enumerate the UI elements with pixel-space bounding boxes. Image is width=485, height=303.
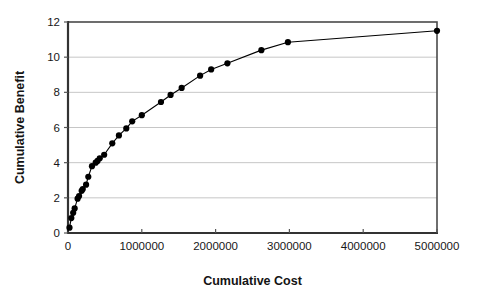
data-point — [72, 205, 78, 211]
data-point — [109, 140, 115, 146]
y-tick-label-0: 0 — [54, 227, 60, 239]
x-axis-title: Cumulative Cost — [203, 274, 302, 288]
y-tick-label-6: 6 — [54, 122, 60, 134]
data-point — [208, 66, 214, 72]
x-tick-label-5000000: 5000000 — [415, 240, 460, 252]
data-point — [116, 132, 122, 138]
y-tick-label-10: 10 — [47, 51, 60, 63]
chart-container: 024681012 010000002000000300000040000005… — [0, 0, 485, 303]
y-axis-title: Cumulative Benefit — [13, 70, 27, 184]
y-tick-label-4: 4 — [54, 157, 61, 169]
data-point — [285, 39, 291, 45]
data-point — [123, 125, 129, 131]
data-point — [434, 28, 440, 34]
data-point — [76, 193, 82, 199]
y-tick-label-8: 8 — [54, 86, 60, 98]
y-tick-label-12: 12 — [47, 16, 60, 28]
data-point — [158, 99, 164, 105]
data-point — [179, 85, 185, 91]
data-point — [129, 118, 135, 124]
cumulative-benefit-cost-chart: 024681012 010000002000000300000040000005… — [0, 0, 485, 303]
data-point — [139, 112, 145, 118]
data-point — [258, 47, 264, 53]
x-tick-label-4000000: 4000000 — [341, 240, 386, 252]
x-tick-label-1000000: 1000000 — [119, 240, 164, 252]
x-tick-label-0: 0 — [65, 240, 71, 252]
y-tick-label-2: 2 — [54, 192, 60, 204]
data-point — [101, 152, 107, 158]
x-tick-label-3000000: 3000000 — [267, 240, 312, 252]
data-point — [167, 92, 173, 98]
data-point — [83, 182, 89, 188]
data-point — [66, 225, 72, 231]
data-point — [85, 174, 91, 180]
data-point — [197, 73, 203, 79]
x-tick-label-2000000: 2000000 — [193, 240, 238, 252]
data-point — [224, 60, 230, 66]
data-point — [68, 215, 74, 221]
